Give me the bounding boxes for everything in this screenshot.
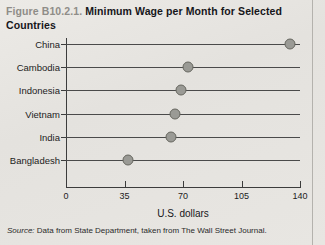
row-rule (66, 44, 300, 45)
figure-number: Figure B10.2.1. (6, 5, 82, 17)
figure-page: Figure B10.2.1. Minimum Wage per Month f… (0, 0, 325, 245)
data-point-bangladesh (122, 155, 133, 166)
x-axis-tick (242, 181, 243, 188)
data-point-cambodia (183, 62, 194, 73)
row-rule (66, 137, 300, 138)
category-label-bangladesh: Bangladesh (10, 155, 60, 166)
figure-caption: Figure B10.2.1. Minimum Wage per Month f… (6, 4, 306, 32)
source-text: Data from State Department, taken from T… (35, 226, 267, 235)
dot-plot-chart: U.S. dollars ChinaCambodiaIndonesiaVietn… (0, 36, 312, 196)
category-label-china: China (35, 39, 60, 50)
data-point-vietnam (169, 108, 180, 119)
x-axis-tick-label: 105 (234, 191, 249, 201)
x-axis-tick (125, 181, 126, 188)
x-axis-tick (300, 181, 301, 188)
category-label-india: India (39, 131, 60, 142)
source-label: Source: (7, 226, 35, 235)
row-rule (66, 160, 300, 161)
y-axis-tick (61, 114, 66, 115)
page-edge-rule (312, 0, 313, 245)
data-point-india (166, 131, 177, 142)
row-rule (66, 114, 300, 115)
source-note: Source: Data from State Department, take… (7, 226, 267, 235)
x-axis-tick-label: 0 (63, 191, 68, 201)
x-axis-tick-label: 35 (119, 191, 129, 201)
y-axis-tick (61, 160, 66, 161)
x-axis-tick-label: 70 (178, 191, 188, 201)
category-label-vietnam: Vietnam (25, 108, 60, 119)
x-axis-tick-label: 140 (292, 191, 307, 201)
y-axis-tick (61, 90, 66, 91)
category-label-indonesia: Indonesia (19, 85, 60, 96)
data-point-china (284, 39, 295, 50)
y-axis-tick (61, 44, 66, 45)
y-axis-tick (61, 67, 66, 68)
y-axis-tick (61, 137, 66, 138)
data-point-indonesia (176, 85, 187, 96)
category-label-cambodia: Cambodia (17, 62, 60, 73)
x-axis-tick (66, 181, 67, 188)
x-axis-title: U.S. dollars (66, 208, 300, 219)
x-axis-tick (183, 181, 184, 188)
